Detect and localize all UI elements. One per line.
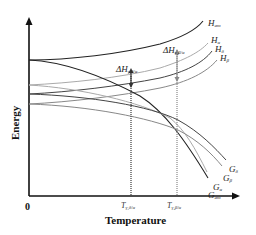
y-axis-arrow-icon xyxy=(26,17,33,25)
tick-label-t-delta: Tγ,δ/α xyxy=(121,201,135,210)
annotation-delta-h-beta: ΔHγ,β/α xyxy=(163,40,185,56)
annotation-delta-h-delta: ΔHγ,δ/α xyxy=(116,59,137,75)
curve-g-delta xyxy=(29,94,226,160)
curve-g-beta xyxy=(29,104,222,166)
label-h-beta: Hβ xyxy=(220,48,229,64)
curve-g-am xyxy=(29,60,208,178)
label-g-beta: Gβ xyxy=(223,168,232,184)
label-h-am: Ham xyxy=(208,13,221,29)
arrow-down-icon xyxy=(129,83,134,88)
origin-label: 0 xyxy=(25,201,30,212)
arrow-down-icon xyxy=(175,77,180,82)
x-axis-label: Temperature xyxy=(105,214,166,226)
gibbs-curves xyxy=(29,60,226,178)
y-axis-label: Energy xyxy=(9,106,21,140)
x-axis-arrow-icon xyxy=(232,193,240,200)
axes xyxy=(26,17,241,200)
curve-g-alpha xyxy=(29,85,207,172)
label-g-am: Gam xyxy=(208,185,221,201)
tick-label-t-beta: Tγ,β/α xyxy=(167,201,181,210)
